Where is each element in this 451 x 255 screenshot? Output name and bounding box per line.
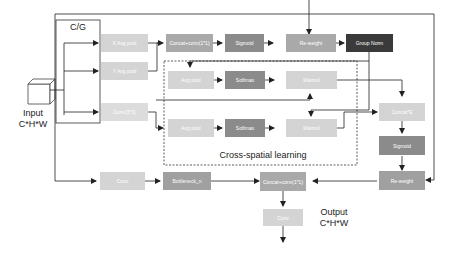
cross-spatial-label: Cross-spatial learning (218, 150, 308, 161)
group-norm-box: Group Norm (346, 34, 393, 52)
y-avg-pool-box: Y Avg pool (101, 62, 148, 80)
avg-pool-2-box: Avg pool (168, 119, 214, 137)
sigmoid-top-box: Sigmoid (225, 34, 264, 52)
concat-conv-bottom-box: Concat+conv(1*1) (260, 172, 306, 191)
x-avg-pool-box: X Avg pool (101, 34, 148, 52)
input-cube-icon (28, 79, 55, 104)
reweight-right-box: Re-weight (379, 171, 425, 190)
input-label-line1: Input (18, 108, 48, 119)
concat-conv-top-box: Concat+conv(1*1) (166, 34, 213, 52)
conv-bottom-box: Conv (100, 172, 145, 190)
group-label: C/G (66, 22, 90, 33)
output-label-line1: Output (314, 207, 354, 218)
sigmoid-right-box: Sigmoid (379, 136, 425, 155)
matmul-2-box: Matmul (286, 119, 337, 137)
softmax-1-box: Softmax (225, 71, 265, 89)
input-label-line2: C*H*W (14, 119, 52, 130)
bottleneck-box: Bottleneck_n (163, 172, 211, 190)
conv-out-box: Conv (263, 209, 303, 226)
reweight-top-box: Re-weight (286, 34, 336, 52)
output-label-line2: C*H*W (314, 218, 354, 229)
group-frame (56, 20, 100, 123)
avg-pool-1-box: Avg pool (168, 71, 214, 89)
conv3x3-box: Conv(3*3) (101, 103, 148, 121)
softmax-2-box: Softmax (225, 119, 265, 137)
matmul-1-box: Matmul (286, 71, 337, 89)
concat-e-box: Concat*E (379, 103, 425, 121)
